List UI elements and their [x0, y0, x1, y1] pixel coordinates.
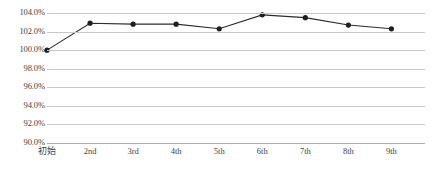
data-point[interactable] — [87, 21, 92, 26]
data-point[interactable] — [303, 15, 308, 20]
y-axis-tick-label: 92.0% — [1, 119, 45, 128]
gridline — [47, 32, 425, 33]
x-axis: 初始2nd3rd4th5th6th7th8th9th — [47, 146, 425, 166]
x-axis-tick-label: 9th — [386, 146, 397, 157]
x-axis-tick-label: 5th — [214, 146, 225, 157]
x-axis-tick-label: 8th — [343, 146, 354, 157]
x-axis-tick-label: 4th — [171, 146, 182, 157]
x-axis-tick-label: 2nd — [84, 146, 97, 157]
x-axis-tick-label: 6th — [257, 146, 268, 157]
x-axis-tick-label: 7th — [300, 146, 311, 157]
gridline — [47, 87, 425, 88]
y-axis-tick-label: 104.0% — [1, 8, 45, 17]
gridline — [47, 124, 425, 125]
plot-area — [47, 13, 425, 143]
data-point[interactable] — [174, 22, 179, 27]
x-axis-baseline — [47, 143, 425, 144]
gridline — [47, 106, 425, 107]
y-axis-tick-label: 102.0% — [1, 27, 45, 36]
y-axis-tick-label: 94.0% — [1, 101, 45, 110]
y-axis-tick-label: 96.0% — [1, 82, 45, 91]
line-chart: 104.0%102.0%100.0%98.0%96.0%94.0%92.0%90… — [0, 0, 431, 169]
x-axis-tick-label: 3rd — [127, 146, 138, 157]
gridline — [47, 69, 425, 70]
y-axis-tick-label: 100.0% — [1, 45, 45, 54]
data-point[interactable] — [346, 22, 351, 27]
gridline — [47, 13, 425, 14]
x-axis-tick-label: 初始 — [38, 146, 56, 157]
gridline — [47, 50, 425, 51]
y-axis-tick-label: 98.0% — [1, 64, 45, 73]
data-point[interactable] — [131, 22, 136, 27]
y-axis: 104.0%102.0%100.0%98.0%96.0%94.0%92.0%90… — [0, 13, 45, 143]
